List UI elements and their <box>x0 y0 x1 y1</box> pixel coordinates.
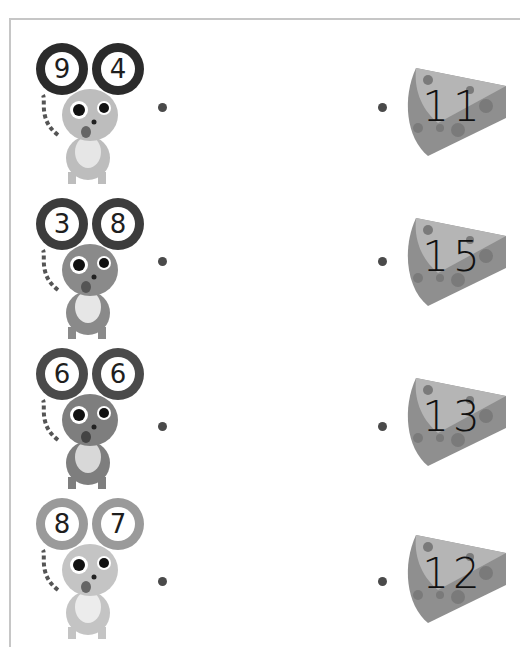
mouse-connector-dot[interactable] <box>158 257 167 266</box>
left-ear-number: 3 <box>44 206 80 242</box>
right-ear-number: 4 <box>100 51 136 87</box>
match-row-3: 6 6 13 <box>0 345 520 495</box>
cheese-connector-dot[interactable] <box>378 257 387 266</box>
mouse-connector-dot[interactable] <box>158 422 167 431</box>
right-ear-number: 7 <box>100 506 136 542</box>
mouse-figure: 9 4 <box>28 40 148 185</box>
cheese-connector-dot[interactable] <box>378 103 387 112</box>
cheese-number: 12 <box>418 549 488 598</box>
mouse-figure: 6 6 <box>28 345 148 490</box>
left-ear-number: 6 <box>44 356 80 392</box>
mouse-figure: 8 7 <box>28 495 148 640</box>
right-ear-number: 6 <box>100 356 136 392</box>
match-row-1: 9 4 11 <box>0 40 520 190</box>
left-ear-number: 8 <box>44 506 80 542</box>
cheese-connector-dot[interactable] <box>378 577 387 586</box>
right-ear-number: 8 <box>100 206 136 242</box>
cheese-wedge: 12 <box>398 535 508 630</box>
worksheet-frame-top-border <box>10 18 520 20</box>
cheese-number: 13 <box>418 392 488 441</box>
cheese-connector-dot[interactable] <box>378 422 387 431</box>
match-row-4: 8 7 12 <box>0 495 520 645</box>
cheese-wedge: 11 <box>398 68 508 163</box>
mouse-connector-dot[interactable] <box>158 103 167 112</box>
mouse-figure: 3 8 <box>28 195 148 340</box>
cheese-number: 15 <box>418 232 488 281</box>
mouse-connector-dot[interactable] <box>158 577 167 586</box>
cheese-wedge: 13 <box>398 378 508 473</box>
left-ear-number: 9 <box>44 51 80 87</box>
cheese-wedge: 15 <box>398 218 508 313</box>
cheese-number: 11 <box>418 82 488 131</box>
match-row-2: 3 8 15 <box>0 195 520 345</box>
